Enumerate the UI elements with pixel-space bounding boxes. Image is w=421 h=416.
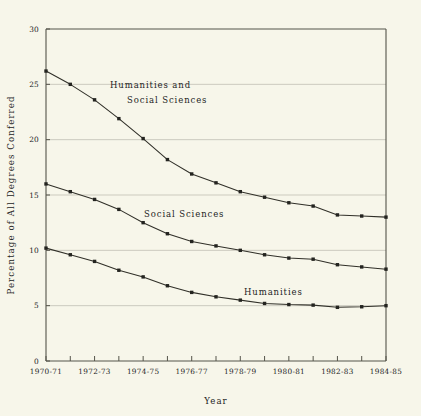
data-point-marker bbox=[69, 253, 72, 256]
data-point-marker bbox=[263, 196, 266, 199]
data-point-marker bbox=[239, 249, 242, 252]
annotation-humanities-social-sciences-line2: Social Sciences bbox=[127, 95, 207, 105]
data-point-marker bbox=[93, 98, 96, 101]
data-point-marker bbox=[287, 303, 290, 306]
data-point-marker bbox=[360, 265, 363, 268]
data-point-marker bbox=[360, 305, 363, 308]
data-point-marker bbox=[384, 304, 387, 307]
data-point-marker bbox=[263, 253, 266, 256]
data-point-marker bbox=[117, 269, 120, 272]
data-point-marker bbox=[141, 221, 144, 224]
data-point-marker bbox=[360, 214, 363, 217]
data-point-marker bbox=[311, 303, 314, 306]
data-point-marker bbox=[69, 190, 72, 193]
data-point-marker bbox=[44, 69, 47, 72]
data-point-marker bbox=[263, 302, 266, 305]
x-tick-label: 1974-75 bbox=[127, 367, 159, 376]
data-point-marker bbox=[117, 117, 120, 120]
data-point-marker bbox=[190, 240, 193, 243]
y-axis-title: Percentage of All Degrees Conferred bbox=[6, 95, 16, 294]
data-point-marker bbox=[239, 190, 242, 193]
data-point-marker bbox=[141, 275, 144, 278]
data-point-marker bbox=[287, 256, 290, 259]
data-point-marker bbox=[239, 298, 242, 301]
data-point-marker bbox=[117, 208, 120, 211]
y-tick-label: 15 bbox=[29, 191, 39, 200]
data-point-marker bbox=[166, 158, 169, 161]
data-point-marker bbox=[384, 267, 387, 270]
data-point-marker bbox=[166, 232, 169, 235]
data-point-marker bbox=[44, 246, 47, 249]
annotation-humanities: Humanities bbox=[244, 287, 303, 297]
x-tick-label: 1976-77 bbox=[176, 367, 208, 376]
data-point-marker bbox=[190, 291, 193, 294]
x-tick-label: 1978-79 bbox=[224, 367, 256, 376]
x-tick-label: 1972-73 bbox=[78, 367, 110, 376]
data-point-marker bbox=[336, 306, 339, 309]
x-tick-label: 1980-81 bbox=[273, 367, 305, 376]
x-tick-label: 1982-83 bbox=[321, 367, 353, 376]
annotation-social-sciences: Social Sciences bbox=[144, 209, 224, 219]
data-point-marker bbox=[214, 295, 217, 298]
data-point-marker bbox=[214, 181, 217, 184]
y-tick-label: 20 bbox=[29, 135, 39, 144]
data-point-marker bbox=[93, 198, 96, 201]
x-axis-title: Year bbox=[203, 396, 228, 406]
chart-background bbox=[0, 0, 421, 416]
y-tick-label: 30 bbox=[29, 25, 39, 34]
data-point-marker bbox=[93, 260, 96, 263]
data-point-marker bbox=[214, 244, 217, 247]
annotation-humanities-social-sciences-line1: Humanities and bbox=[110, 80, 191, 90]
line-chart: 051015202530 1970-711972-731974-751976-7… bbox=[0, 0, 421, 416]
data-point-marker bbox=[44, 182, 47, 185]
y-tick-label: 10 bbox=[29, 246, 39, 255]
y-tick-label: 0 bbox=[34, 357, 39, 366]
data-point-marker bbox=[336, 213, 339, 216]
data-point-marker bbox=[336, 263, 339, 266]
data-point-marker bbox=[190, 172, 193, 175]
data-point-marker bbox=[141, 137, 144, 140]
y-tick-label: 5 bbox=[34, 301, 39, 310]
data-point-marker bbox=[287, 201, 290, 204]
x-tick-label: 1970-71 bbox=[30, 367, 62, 376]
data-point-marker bbox=[166, 284, 169, 287]
y-tick-label: 25 bbox=[29, 80, 39, 89]
data-point-marker bbox=[311, 257, 314, 260]
chart-container: 051015202530 1970-711972-731974-751976-7… bbox=[0, 0, 421, 416]
data-point-marker bbox=[311, 204, 314, 207]
data-point-marker bbox=[69, 83, 72, 86]
data-point-marker bbox=[384, 215, 387, 218]
x-tick-label: 1984-85 bbox=[370, 367, 402, 376]
